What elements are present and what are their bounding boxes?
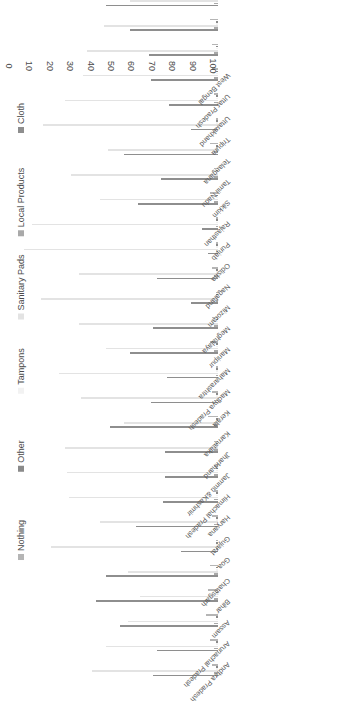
legend-item-cloth[interactable]: Cloth xyxy=(16,103,26,133)
legend-swatch-icon xyxy=(18,127,24,133)
bar-cloth xyxy=(120,625,218,627)
bar-tampons xyxy=(216,643,218,645)
bar-sanitary-pads xyxy=(81,397,218,399)
value-axis: 1009080706050403020100 xyxy=(14,26,218,66)
bar-group xyxy=(14,258,218,283)
legend-item-local-products[interactable]: Local Products xyxy=(16,168,26,237)
chart-legend: ClothLocal ProductsSanitary PadsTamponsO… xyxy=(8,0,34,722)
bar-sanitary-pads xyxy=(128,621,218,623)
bar-other xyxy=(216,641,218,643)
bar-nothing xyxy=(210,19,218,21)
bar-nothing xyxy=(206,614,218,616)
bar-group xyxy=(14,184,218,209)
bar-sanitary-pads xyxy=(108,149,218,151)
bar-sanitary-pads xyxy=(128,571,218,573)
bar-tampons xyxy=(216,569,218,571)
bar-group xyxy=(14,134,218,159)
bar-sanitary-pads xyxy=(59,373,218,375)
bar-cloth xyxy=(157,650,218,652)
bar-group xyxy=(14,457,218,482)
bar-group xyxy=(14,109,218,134)
legend-item-nothing[interactable]: Nothing xyxy=(16,520,26,560)
bar-sanitary-pads xyxy=(83,75,218,77)
value-tick-label: 100 xyxy=(208,58,218,73)
plot-area xyxy=(14,70,218,680)
bar-tampons xyxy=(216,222,218,224)
category-label: Goa xyxy=(216,556,232,572)
bar-nothing xyxy=(216,242,218,244)
bar-group xyxy=(14,333,218,358)
bar-group xyxy=(14,0,218,10)
legend-item-tampons[interactable]: Tampons xyxy=(16,348,26,394)
bar-nothing xyxy=(216,118,218,120)
value-tick-label: 60 xyxy=(126,61,136,71)
bar-sanitary-pads xyxy=(32,224,218,226)
bar-cloth xyxy=(136,526,218,528)
legend-item-sanitary-pads[interactable]: Sanitary Pads xyxy=(16,254,26,319)
bar-group xyxy=(14,209,218,234)
bar-sanitary-pads xyxy=(24,249,218,251)
value-tick-label: 40 xyxy=(86,61,96,71)
legend-label: Other xyxy=(16,440,26,463)
bar-group xyxy=(14,556,218,581)
legend-swatch-icon xyxy=(18,388,24,394)
bar-cloth xyxy=(106,5,218,7)
legend-label: Sanitary Pads xyxy=(16,254,26,310)
chart-figure: Andhra PradeshArunachal PradeshAssamBiha… xyxy=(0,0,347,722)
bar-local-products xyxy=(214,3,218,5)
bar-group xyxy=(14,308,218,333)
bar-tampons xyxy=(216,370,218,372)
legend-swatch-icon xyxy=(18,465,24,471)
bar-other xyxy=(216,95,218,97)
legend-swatch-icon xyxy=(18,231,24,237)
bar-cloth xyxy=(151,402,218,404)
bar-cloth xyxy=(124,154,218,156)
bar-group xyxy=(14,233,218,258)
legend-swatch-icon xyxy=(18,313,24,319)
value-tick-label: 70 xyxy=(147,61,157,71)
bar-tampons xyxy=(216,619,218,621)
bar-group xyxy=(14,283,218,308)
bar-group xyxy=(14,581,218,606)
bar-local-products xyxy=(214,573,218,575)
bar-other xyxy=(216,21,218,23)
bar-sanitary-pads xyxy=(79,273,218,275)
bar-group xyxy=(14,606,218,631)
bar-sanitary-pads xyxy=(71,174,218,176)
bar-other xyxy=(216,244,218,246)
bar-cloth xyxy=(153,327,218,329)
bar-group xyxy=(14,159,218,184)
bar-sanitary-pads xyxy=(43,124,218,126)
value-tick-label: 80 xyxy=(167,61,177,71)
value-tick-label: 20 xyxy=(45,61,55,71)
bar-sanitary-pads xyxy=(67,472,218,474)
bar-cloth xyxy=(151,79,218,81)
bar-cloth xyxy=(169,104,218,106)
bar-sanitary-pads xyxy=(65,100,218,102)
bar-group xyxy=(14,357,218,382)
bar-local-products xyxy=(214,623,218,625)
bar-sanitary-pads xyxy=(130,0,218,2)
bar-other xyxy=(216,368,218,370)
value-tick-label: 90 xyxy=(188,61,198,71)
bar-cloth xyxy=(110,427,218,429)
bar-group xyxy=(14,432,218,457)
bar-sanitary-pads xyxy=(69,497,218,499)
bar-local-products xyxy=(214,350,218,352)
bar-cloth xyxy=(163,501,218,503)
legend-label: Nothing xyxy=(16,520,26,551)
bar-tampons xyxy=(216,495,218,497)
bar-tampons xyxy=(216,23,218,25)
legend-item-other[interactable]: Other xyxy=(16,440,26,472)
legend-label: Cloth xyxy=(16,103,26,124)
bar-cloth xyxy=(106,575,218,577)
bar-group xyxy=(14,630,218,655)
value-tick-label: 30 xyxy=(65,61,75,71)
bar-group xyxy=(14,407,218,432)
bar-sanitary-pads xyxy=(106,646,218,648)
bar-sanitary-pads xyxy=(41,298,218,300)
bar-group xyxy=(14,85,218,110)
bar-sanitary-pads xyxy=(51,546,218,548)
bar-cloth xyxy=(167,377,218,379)
bar-other xyxy=(216,616,218,618)
